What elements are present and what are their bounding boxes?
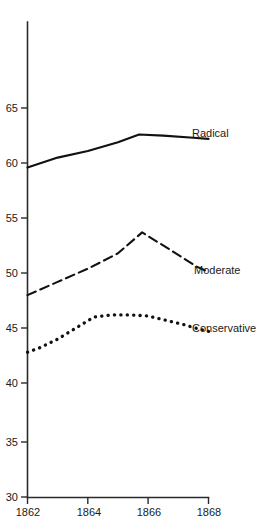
x-tick-label-1864: 1864 bbox=[77, 506, 101, 518]
series-label-radical: Radical bbox=[192, 127, 229, 139]
y-tick-label-30: 30 bbox=[6, 491, 18, 503]
series-label-moderate: Moderate bbox=[194, 264, 240, 276]
y-axis-ticks bbox=[21, 108, 28, 497]
series-label-conservative: Conservative bbox=[192, 322, 256, 334]
line-chart: 65 60 55 50 45 40 35 30 1862 1864 1866 1… bbox=[0, 0, 263, 520]
y-tick-label-55: 55 bbox=[6, 212, 18, 224]
series-line-radical bbox=[28, 135, 209, 168]
series-line-moderate bbox=[28, 232, 209, 295]
y-tick-label-60: 60 bbox=[6, 157, 18, 169]
y-tick-label-45: 45 bbox=[6, 322, 18, 334]
x-tick-label-1866: 1866 bbox=[137, 506, 161, 518]
y-tick-label-50: 50 bbox=[6, 267, 18, 279]
y-tick-label-35: 35 bbox=[6, 436, 18, 448]
series-line-conservative bbox=[28, 315, 209, 352]
y-tick-label-65: 65 bbox=[6, 102, 18, 114]
y-tick-label-40: 40 bbox=[6, 377, 18, 389]
x-tick-label-1862: 1862 bbox=[16, 506, 40, 518]
x-tick-label-1868: 1868 bbox=[197, 506, 221, 518]
x-axis-ticks bbox=[28, 498, 209, 505]
chart-canvas: 65 60 55 50 45 40 35 30 1862 1864 1866 1… bbox=[0, 0, 263, 520]
